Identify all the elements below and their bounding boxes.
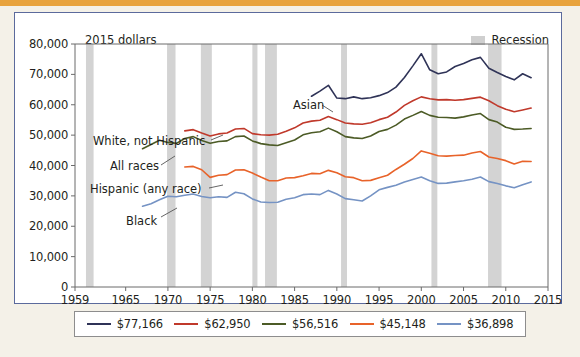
- x-tick-label-10: 2010: [484, 293, 528, 307]
- series-legend: $77,166$62,950$56,516$45,148$36,898: [74, 311, 526, 337]
- x-tick-label-7: 1995: [357, 293, 401, 307]
- legend-value-2: $56,516: [292, 317, 338, 331]
- y-tick-label-1: 10,000: [8, 250, 68, 264]
- recession-band-6: [431, 44, 437, 287]
- plot-area: [15, 13, 563, 305]
- hispanic-label: Hispanic (any race): [90, 182, 202, 196]
- chart-svg: [15, 13, 563, 305]
- legend-swatch-1: [174, 323, 198, 325]
- recession-band-1: [167, 44, 175, 287]
- legend-swatch-2: [262, 323, 286, 325]
- recession-band-0: [86, 44, 94, 287]
- x-tick-label-2: 1970: [146, 293, 190, 307]
- asian-label: Asian: [293, 98, 324, 112]
- all-races-label: All races: [110, 159, 159, 173]
- black-label: Black: [126, 214, 157, 228]
- legend-value-3: $45,148: [380, 317, 426, 331]
- y-tick-label-4: 40,000: [8, 159, 68, 173]
- y-tick-label-0: 0: [8, 280, 68, 294]
- x-tick-label-9: 2005: [442, 293, 486, 307]
- legend-value-1: $62,950: [204, 317, 250, 331]
- y-tick-label-3: 30,000: [8, 189, 68, 203]
- legend-value-0: $77,166: [117, 317, 163, 331]
- legend-swatch-3: [350, 323, 374, 325]
- chart-panel: 2015 dollars Recession 010,00020,00030,0…: [14, 12, 562, 304]
- y-tick-label-8: 80,000: [8, 37, 68, 51]
- legend-item-0[interactable]: $77,166: [87, 317, 163, 331]
- recession-band-3: [252, 44, 257, 287]
- legend-value-4: $36,898: [467, 317, 513, 331]
- y-tick-label-7: 70,000: [8, 67, 68, 81]
- x-tick-label-5: 1985: [273, 293, 317, 307]
- series-line-white-not-hispanic: [185, 97, 531, 136]
- legend-swatch-0: [87, 323, 111, 325]
- x-tick-label-8: 2000: [399, 293, 443, 307]
- recession-band-4: [265, 44, 277, 287]
- white-label: White, not Hispanic: [93, 134, 205, 148]
- x-tick-label-3: 1975: [188, 293, 232, 307]
- x-tick-label-1: 1965: [104, 293, 148, 307]
- legend-item-3[interactable]: $45,148: [350, 317, 426, 331]
- y-tick-label-5: 50,000: [8, 128, 68, 142]
- recession-band-7: [488, 44, 502, 287]
- legend-item-2[interactable]: $56,516: [262, 317, 338, 331]
- recession-band-2: [201, 44, 212, 287]
- x-tick-label-0: 1959: [53, 293, 97, 307]
- y-tick-label-2: 20,000: [8, 219, 68, 233]
- legend-swatch-4: [437, 323, 461, 325]
- x-tick-label-11: 2015: [526, 293, 570, 307]
- series-line-hispanic-any-race: [185, 151, 531, 181]
- legend-item-4[interactable]: $36,898: [437, 317, 513, 331]
- x-tick-label-6: 1990: [315, 293, 359, 307]
- y-tick-label-6: 60,000: [8, 98, 68, 112]
- recession-band-5: [341, 44, 347, 287]
- legend-item-1[interactable]: $62,950: [174, 317, 250, 331]
- x-tick-label-4: 1980: [230, 293, 274, 307]
